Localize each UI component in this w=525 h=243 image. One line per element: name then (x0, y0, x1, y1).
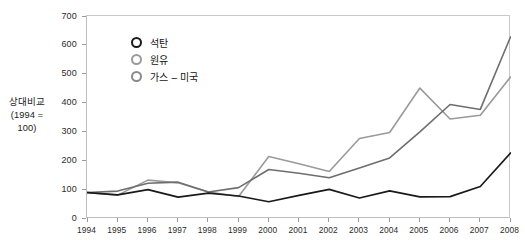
x-axis-tick-mark (207, 218, 208, 222)
legend-item-label: 석탄 (150, 35, 168, 50)
legend-item-label: 가스 – 미국 (150, 69, 199, 84)
y-axis-tick-label: 0 (47, 213, 77, 223)
y-axis-tick-label: 300 (47, 126, 77, 136)
legend-circle-icon (131, 37, 142, 48)
y-axis-title: 상대비교 (1994 = 100) (0, 95, 54, 136)
legend-circle-icon (131, 71, 142, 82)
y-axis-tick-label: 100 (47, 184, 77, 194)
series-line (88, 153, 511, 202)
legend-item[interactable]: 석탄 (131, 34, 199, 51)
y-axis-tick-label: 400 (47, 97, 77, 107)
x-axis-tick-mark (419, 218, 420, 222)
x-axis-tick-mark (479, 218, 480, 222)
legend: 석탄원유가스 – 미국 (131, 34, 199, 85)
y-axis-tick-label: 600 (47, 39, 77, 49)
x-axis-tick-mark (268, 218, 269, 222)
x-axis-tick-mark (177, 218, 178, 222)
x-axis-tick-mark (298, 218, 299, 222)
x-axis-tick-mark (510, 218, 511, 222)
y-axis-tick-label: 500 (47, 68, 77, 78)
x-axis-tick-mark (117, 218, 118, 222)
legend-item-label: 원유 (150, 52, 168, 67)
relative-price-index-line-chart: 상대비교 (1994 = 100) 0100200300400500600700… (0, 0, 525, 243)
y-axis-tick-mark (82, 218, 86, 219)
x-axis-tick-mark (147, 218, 148, 222)
y-axis-title-line-1: 상대비교 (0, 95, 54, 109)
legend-item[interactable]: 가스 – 미국 (131, 68, 199, 85)
legend-item[interactable]: 원유 (131, 51, 199, 68)
legend-circle-icon (131, 54, 142, 65)
y-axis-tick-label: 200 (47, 155, 77, 165)
x-axis-tick-mark (358, 218, 359, 222)
x-axis-tick-mark (87, 218, 88, 222)
y-axis-title-line-2: (1994 = 100) (0, 109, 54, 136)
y-axis-tick-label: 700 (47, 11, 77, 21)
series-line (88, 77, 511, 196)
x-axis-tick-mark (238, 218, 239, 222)
x-axis-tick-mark (449, 218, 450, 222)
x-axis-tick-label: 2008 (490, 225, 525, 235)
x-axis-tick-mark (328, 218, 329, 222)
x-axis-tick-mark (389, 218, 390, 222)
